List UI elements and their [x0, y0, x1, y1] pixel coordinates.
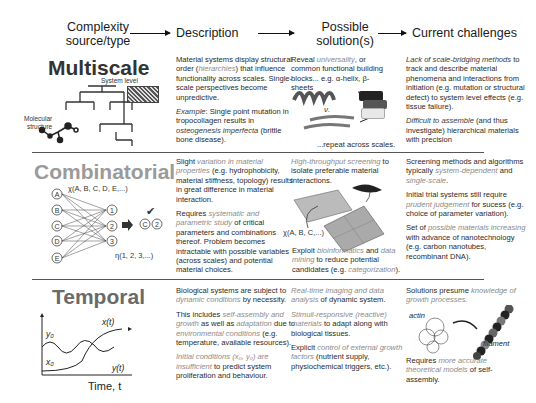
screening-plates-figure	[290, 182, 388, 252]
label-y-t: y(t)	[111, 363, 124, 373]
text-run: This includes	[176, 310, 222, 319]
node-label: 1	[110, 207, 114, 214]
label-time-axis: Time, t	[88, 380, 121, 392]
text-run: Reveal	[291, 55, 317, 64]
text-run: as well as	[199, 319, 237, 328]
text-run: by necessity.	[241, 295, 286, 304]
label-actin: actin	[409, 311, 425, 320]
system-level-texture-icon	[127, 86, 159, 103]
header-text: solution(s)	[300, 34, 390, 48]
multiscale-description: Material systems display structural orde…	[176, 55, 296, 150]
header-possible-solutions: Possible solution(s)	[300, 20, 390, 48]
text-run: adaptation	[236, 319, 271, 328]
paragraph: Requires more accurate theoretical model…	[406, 356, 516, 384]
header-text: Possible	[300, 20, 390, 34]
header-current-challenges: Current challenges	[412, 26, 536, 40]
node-label: B	[55, 207, 60, 214]
header-description: Description	[176, 26, 266, 40]
row-divider	[32, 279, 484, 280]
label-text: Molecular	[24, 115, 52, 123]
paragraph: Lack of scale-bridging methods to track …	[406, 55, 531, 111]
text-run: single-scale	[406, 176, 446, 185]
temporal-solution: Real-time imaging and data analysis of d…	[291, 286, 403, 376]
paragraph: Exploit bioinformatics and data mining t…	[292, 246, 404, 274]
paragraph: Biological systems are subject to dynami…	[176, 286, 298, 305]
arrow-icon	[130, 33, 170, 34]
combinatorial-challenges: Screening methods and algorithms typical…	[406, 157, 528, 266]
text-run: dynamic conditions	[176, 295, 241, 304]
node-label: A	[55, 191, 60, 198]
text-run: bioinformatics	[317, 246, 364, 255]
node-label: E	[55, 255, 60, 262]
label-x-t: x(t)	[101, 317, 114, 327]
text-run: categorization	[348, 265, 395, 274]
label-system-level: System level	[101, 77, 138, 84]
arrow-icon	[378, 33, 406, 34]
combinatorial-solution-after: Exploit bioinformatics and data mining t…	[292, 246, 404, 279]
combinatorial-network-figure: A B C D E 1 2 3	[32, 186, 142, 274]
paragraph: Stimuli-responsive (reactive) materials …	[291, 310, 403, 338]
combinatorial-description: Slight variation in material properties …	[176, 157, 294, 280]
text-run: Requires	[406, 356, 439, 365]
paragraph: Solutions presume knowledge of growth pr…	[406, 286, 526, 305]
text-run: with advance of nanotechnology (e.g. car…	[406, 233, 515, 261]
text-run: Explicit	[291, 343, 317, 352]
node-label: 2	[155, 221, 159, 228]
text-run: Lack of scale-bridging methods	[406, 55, 511, 64]
text-run: hierarchies	[198, 64, 235, 73]
text-run: High-throughput screening	[291, 157, 381, 166]
header-complexity-source: Complexity source/type	[58, 20, 138, 48]
label-text: structure	[24, 123, 52, 131]
result-pair-figure: C 2	[138, 217, 168, 231]
text-run: Solutions presume	[406, 286, 471, 295]
text-run: universality	[317, 55, 355, 64]
multiscale-challenges: Lack of scale-bridging methods to track …	[406, 55, 531, 150]
arrow-right-icon	[122, 219, 133, 231]
node-label: 3	[110, 238, 114, 245]
paragraph: Set of possible materials increasing wit…	[406, 223, 528, 261]
temporal-plot-figure: x(t) y(t) y₀ x₀	[36, 313, 136, 383]
paragraph: This includes self-assembly and growth a…	[176, 310, 298, 348]
paragraph: Screening methods and algorithms typical…	[406, 157, 528, 185]
paragraph: Explicit control of external growth fact…	[291, 343, 403, 371]
text-run: possible materials increasing	[428, 223, 526, 232]
arrow-icon	[258, 33, 294, 34]
paragraph: Slight variation in material properties …	[176, 157, 294, 204]
label-filament: filament	[483, 339, 509, 348]
paragraph: Example: Single point mutation in tropoc…	[176, 107, 296, 145]
category-combinatorial: Combinatorial	[34, 160, 175, 184]
text-run: and	[364, 246, 381, 255]
label-nu: ν.	[324, 105, 330, 114]
text-run: environmental conditions	[176, 329, 260, 338]
text-run: Slight	[176, 157, 197, 166]
paragraph: Material systems display structural orde…	[176, 55, 296, 102]
text-run: prudent judgement	[406, 200, 469, 209]
text-run: ).	[395, 265, 400, 274]
label-x0: x₀	[45, 357, 54, 367]
category-temporal: Temporal	[52, 285, 145, 309]
text-run: Exploit	[292, 246, 317, 255]
paragraph: Difficult to assemble (and thus investig…	[406, 116, 531, 144]
paragraph: Initial conditions (x₀, y₀) are insuffic…	[176, 352, 298, 380]
node-label: C	[142, 221, 147, 228]
header-text: Complexity	[58, 20, 138, 34]
text-run: of dynamic system.	[318, 295, 385, 304]
paragraph: Real-time imaging and data analysis of d…	[291, 286, 403, 305]
text-run: .	[446, 176, 448, 185]
row-divider	[32, 152, 484, 153]
node-label: D	[54, 238, 59, 245]
header-text: source/type	[58, 34, 138, 48]
paragraph: Requires systematic and parametric study…	[176, 209, 294, 275]
label-chi: χ(A, B, C, D, E,...)	[68, 184, 128, 193]
text-run: and	[498, 166, 513, 175]
text-run: Example	[176, 107, 206, 116]
text-run: system-dependent	[435, 166, 497, 175]
text-run: osteogenesis imperfecta	[176, 126, 258, 135]
label-molecular-structure: Molecular structure	[24, 115, 52, 131]
text-run: Initial trial systems still require	[406, 190, 507, 199]
paragraph: Initial trial systems still require prud…	[406, 190, 528, 218]
node-label: 2	[110, 223, 114, 230]
multiscale-solution-footer: ...repeat across scales.	[317, 140, 397, 149]
temporal-description: Biological systems are subject to dynami…	[176, 286, 298, 386]
text-run: Requires	[176, 209, 209, 218]
